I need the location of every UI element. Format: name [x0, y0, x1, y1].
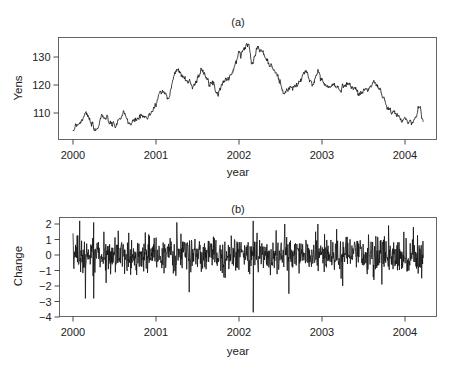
panel-a-x-tick-label: 2002: [227, 149, 251, 161]
panel-a-x-label: year: [227, 166, 250, 178]
panel-a-x-tick-label: 2004: [393, 149, 417, 161]
panel-a-y-tick-label: 120: [32, 79, 50, 91]
panel-a-yen-rate: (a) 110120130 20002001200220032004 year …: [12, 16, 437, 178]
panel-b-x-axis: 20002001200220032004: [61, 317, 417, 338]
panel-b-y-tick-label: 2: [45, 218, 51, 230]
panel-b-change-line: [73, 221, 423, 312]
panel-b-y-tick-label: −2: [39, 280, 52, 292]
figure: (a) 110120130 20002001200220032004 year …: [0, 0, 453, 370]
panel-b-y-tick-label: −4: [39, 311, 52, 323]
panel-a-y-tick-label: 130: [32, 51, 50, 63]
panel-b-x-label: year: [227, 345, 250, 357]
panel-b-y-tick-label: −1: [39, 265, 52, 277]
panel-a-title: (a): [231, 16, 244, 28]
panel-a-y-tick-label: 110: [33, 107, 51, 119]
panel-a-x-axis: 20002001200220032004: [61, 140, 417, 161]
panel-b-title: (b): [231, 203, 244, 215]
panel-b-daily-change: (b) 210−1−2−3−4 20002001200220032004 yea…: [12, 203, 437, 357]
panel-b-x-tick-label: 2003: [310, 326, 334, 338]
panel-b-x-tick-label: 2002: [227, 326, 251, 338]
panel-b-y-label: Change: [12, 246, 24, 286]
panel-b-y-tick-label: 0: [45, 249, 51, 261]
panel-a-x-tick-label: 2000: [61, 149, 85, 161]
panel-a-x-tick-label: 2003: [310, 149, 334, 161]
panel-a-x-tick-label: 2001: [144, 149, 168, 161]
panel-a-y-axis: 110120130: [32, 51, 58, 119]
panel-b-y-tick-label: 1: [45, 234, 51, 246]
panel-b-x-tick-label: 2000: [61, 326, 85, 338]
panel-b-y-tick-label: −3: [39, 296, 52, 308]
panel-b-x-tick-label: 2001: [144, 326, 168, 338]
panel-a-y-label: Yens: [12, 75, 24, 100]
panel-b-y-axis: 210−1−2−3−4: [39, 218, 60, 323]
panel-a-yen-line: [73, 43, 423, 131]
panel-b-x-tick-label: 2004: [393, 326, 417, 338]
